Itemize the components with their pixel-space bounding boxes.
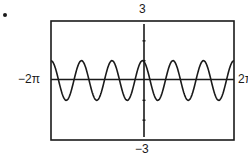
x-max-label: 2π: [238, 73, 248, 85]
y-max-label: 3: [139, 3, 146, 15]
viewing-window-frame: [51, 21, 234, 140]
cosine-curve: [51, 61, 234, 101]
x-min-label: −2π: [18, 73, 40, 85]
y-min-label: −3: [135, 143, 149, 155]
